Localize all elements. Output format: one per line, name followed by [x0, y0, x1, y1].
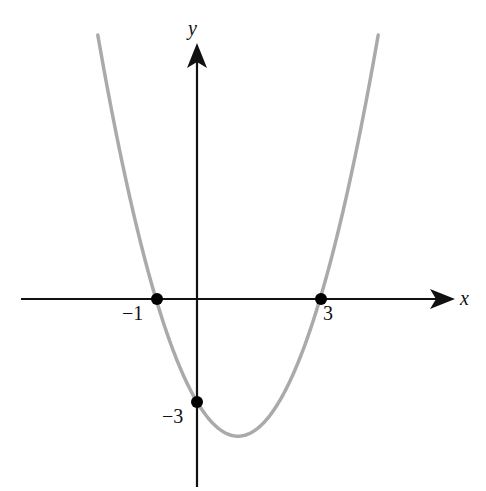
- label-x-intercept-right: 3: [323, 302, 333, 324]
- parabola-curve: [98, 35, 378, 436]
- label-y-intercept: −3: [162, 405, 183, 427]
- point-x-intercept-left: [151, 293, 163, 305]
- parabola-graph: x y −1 3 −3: [0, 0, 486, 491]
- label-x-intercept-left: −1: [122, 302, 143, 324]
- x-axis-label: x: [459, 287, 469, 309]
- point-y-intercept: [191, 396, 203, 408]
- y-axis-label: y: [186, 17, 197, 40]
